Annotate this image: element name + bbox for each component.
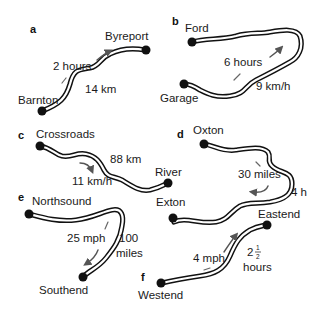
endpoint-byreport <box>142 46 151 55</box>
endpoint-northsound <box>25 210 34 219</box>
label-speed-c: 11 km/h <box>72 175 112 187</box>
label-time-a: 2 hours <box>53 60 92 72</box>
panel-c: c Crossroads River 88 km 11 km/h <box>18 128 182 190</box>
endpoint-southend <box>79 273 88 282</box>
label-river: River <box>155 166 182 178</box>
label-byreport: Byreport <box>105 30 149 42</box>
label-speed-f: 4 mph <box>193 252 225 264</box>
direction-arrow-e <box>86 250 98 264</box>
label-garage: Garage <box>160 92 198 104</box>
panel-letter-b: b <box>172 15 179 27</box>
tick-mark-f <box>204 268 210 270</box>
time-frac-den-f: 2 <box>256 253 260 260</box>
label-distance-d: 30 miles <box>238 168 281 180</box>
endpoint-eastend <box>263 221 272 230</box>
endpoint-crossroads <box>36 142 45 151</box>
endpoint-garage <box>180 80 189 89</box>
label-eastend: Eastend <box>258 208 300 220</box>
panel-e: e Northsound Southend 25 mph 100 miles <box>18 191 143 296</box>
label-westend: Westend <box>138 289 183 301</box>
tick-mark-a <box>62 78 66 83</box>
tick-mark-e <box>105 222 108 229</box>
time-unit-f: hours <box>243 261 272 273</box>
panel-letter-f: f <box>141 271 145 283</box>
label-exton: Exton <box>156 196 185 208</box>
label-southend: Southend <box>39 284 88 296</box>
label-crossroads: Crossroads <box>36 128 95 140</box>
endpoint-oxton <box>200 140 209 149</box>
endpoint-exton <box>169 214 178 223</box>
label-speed-b: 9 km/h <box>256 80 291 92</box>
endpoint-barnton <box>38 107 47 116</box>
label-time-d: 4 h <box>291 186 307 198</box>
tick-mark-d <box>256 162 260 166</box>
label-distance-unit-e: miles <box>116 247 143 259</box>
time-frac-num-f: 1 <box>256 244 260 251</box>
label-time-b: 6 hours <box>224 56 263 68</box>
direction-arrow-b <box>270 48 281 57</box>
tick-mark-b <box>234 74 240 80</box>
panel-letter-d: d <box>177 128 184 140</box>
journeys-diagram: a Byreport Barnton 2 hours 14 km b Ford … <box>0 0 320 317</box>
label-oxton: Oxton <box>193 124 224 136</box>
label-distance-value-e: 100 <box>119 232 138 244</box>
panel-letter-a: a <box>30 23 37 35</box>
label-distance-a: 14 km <box>85 83 116 95</box>
panel-letter-e: e <box>18 191 24 203</box>
endpoint-westend <box>157 279 166 288</box>
panel-a: a Byreport Barnton 2 hours 14 km <box>18 23 151 116</box>
panel-b: b Ford Garage 6 hours 9 km/h <box>160 15 301 104</box>
direction-arrow-d <box>252 186 268 192</box>
label-ford: Ford <box>185 22 209 34</box>
time-whole-f: 2 <box>247 246 253 258</box>
label-distance-c: 88 km <box>110 153 141 165</box>
endpoint-river <box>164 179 173 188</box>
endpoint-ford <box>188 38 197 47</box>
label-time-f: 2 1 2 hours <box>243 244 272 273</box>
direction-arrow-c <box>80 163 92 171</box>
label-speed-e: 25 mph <box>67 232 105 244</box>
label-barnton: Barnton <box>18 94 58 106</box>
label-northsound: Northsound <box>32 195 91 207</box>
panel-letter-c: c <box>18 129 24 141</box>
